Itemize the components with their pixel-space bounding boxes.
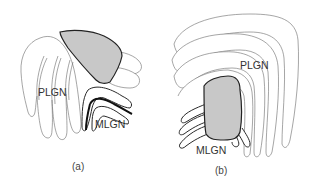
panel-a-mlgn-label: MLGN	[95, 118, 125, 130]
panel-a-caption: (a)	[72, 161, 84, 172]
panel-a: PLGN MLGN (a)	[21, 30, 142, 172]
panel-a-plgn-label: PLGN	[38, 86, 67, 98]
panel-b-caption: (b)	[215, 165, 227, 176]
panel-b-shaded-region	[204, 76, 242, 140]
panel-b: PLGN MLGN (b)	[172, 14, 299, 176]
lgn-figure: PLGN MLGN (a) PLGN MLGN (b)	[0, 0, 314, 185]
panel-b-plgn-label: PLGN	[240, 59, 269, 71]
panel-b-mlgn-label: MLGN	[196, 144, 226, 156]
